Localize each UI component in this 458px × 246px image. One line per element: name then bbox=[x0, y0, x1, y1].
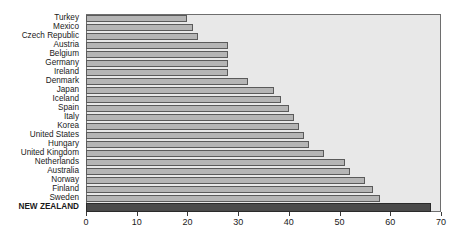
bar-row bbox=[86, 131, 441, 140]
bar-chart: TurkeyMexicoCzech RepublicAustriaBelgium… bbox=[0, 0, 458, 246]
bar-row bbox=[86, 86, 441, 95]
category-axis-labels: TurkeyMexicoCzech RepublicAustriaBelgium… bbox=[0, 14, 83, 212]
bar-row bbox=[86, 95, 441, 104]
bar-row bbox=[86, 149, 441, 158]
bar-row bbox=[86, 203, 441, 212]
x-tick-mark bbox=[187, 212, 188, 216]
bar bbox=[86, 141, 309, 148]
bar bbox=[86, 51, 228, 58]
bar-row bbox=[86, 194, 441, 203]
bar-row bbox=[86, 50, 441, 59]
bar bbox=[86, 42, 228, 49]
x-tick-mark bbox=[340, 212, 341, 216]
bar bbox=[86, 105, 289, 112]
bar-row bbox=[86, 104, 441, 113]
bar-row bbox=[86, 113, 441, 122]
x-tick-label: 0 bbox=[83, 218, 88, 227]
x-tick-label: 70 bbox=[436, 218, 446, 227]
x-tick-mark bbox=[137, 212, 138, 216]
x-tick-mark bbox=[289, 212, 290, 216]
bar bbox=[86, 150, 324, 157]
bar bbox=[86, 60, 228, 67]
x-tick-label: 30 bbox=[233, 218, 243, 227]
bar-row bbox=[86, 68, 441, 77]
bar-highlight bbox=[86, 203, 431, 212]
x-axis-tick-labels: 010203040506070 bbox=[0, 218, 458, 232]
bar bbox=[86, 159, 345, 166]
x-tick-label: 20 bbox=[182, 218, 192, 227]
bar bbox=[86, 33, 198, 40]
bar bbox=[86, 87, 274, 94]
bar bbox=[86, 177, 365, 184]
bar-row bbox=[86, 23, 441, 32]
bar bbox=[86, 195, 380, 202]
category-label: NEW ZEALAND bbox=[0, 203, 83, 212]
bar bbox=[86, 69, 228, 76]
x-tick-mark bbox=[390, 212, 391, 216]
bar-row bbox=[86, 140, 441, 149]
bar-row bbox=[86, 77, 441, 86]
bar bbox=[86, 78, 248, 85]
x-tick-label: 40 bbox=[284, 218, 294, 227]
bar-row bbox=[86, 167, 441, 176]
bar bbox=[86, 168, 350, 175]
x-tick-mark bbox=[86, 212, 87, 216]
x-tick-label: 50 bbox=[335, 218, 345, 227]
bar bbox=[86, 24, 193, 31]
bar-row bbox=[86, 14, 441, 23]
bar-row bbox=[86, 41, 441, 50]
x-tick-mark bbox=[441, 212, 442, 216]
bar-row bbox=[86, 32, 441, 41]
bar bbox=[86, 132, 304, 139]
x-tick-label: 10 bbox=[132, 218, 142, 227]
bar-row bbox=[86, 59, 441, 68]
bars-container bbox=[86, 14, 441, 212]
bar bbox=[86, 15, 187, 22]
bar bbox=[86, 114, 294, 121]
bar bbox=[86, 123, 299, 130]
bar-row bbox=[86, 185, 441, 194]
x-tick-label: 60 bbox=[385, 218, 395, 227]
bar-row bbox=[86, 122, 441, 131]
bar-row bbox=[86, 176, 441, 185]
bar bbox=[86, 186, 373, 193]
bar-row bbox=[86, 158, 441, 167]
x-tick-mark bbox=[238, 212, 239, 216]
bar bbox=[86, 96, 281, 103]
